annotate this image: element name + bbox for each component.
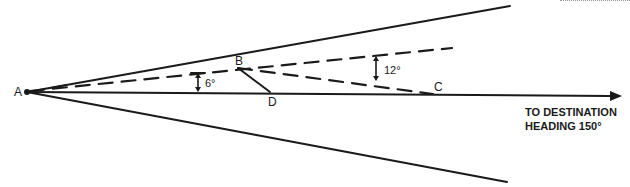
- diagram-lines: [0, 0, 630, 187]
- lower-boundary-line: [27, 92, 507, 182]
- course-arrowhead-icon: [610, 91, 622, 101]
- point-a-dot: [24, 89, 30, 95]
- angle-6-label: 6°: [205, 78, 216, 89]
- point-d-label: D: [268, 96, 277, 108]
- angle-12-label: 12°: [384, 65, 401, 76]
- point-b-label: B: [235, 55, 243, 67]
- point-a-label: A: [14, 86, 22, 98]
- angle-12-arrow-down: [373, 76, 379, 81]
- diagram-canvas: A B C D 6° 12° TO DESTINATION HEADING 15…: [0, 0, 630, 187]
- angle-6-arrow-down: [195, 87, 201, 92]
- point-c-label: C: [434, 81, 443, 93]
- destination-label: TO DESTINATION HEADING 150°: [525, 105, 617, 133]
- destination-line-2: HEADING 150°: [525, 119, 617, 133]
- course-line: [27, 92, 610, 96]
- destination-line-1: TO DESTINATION: [525, 105, 617, 119]
